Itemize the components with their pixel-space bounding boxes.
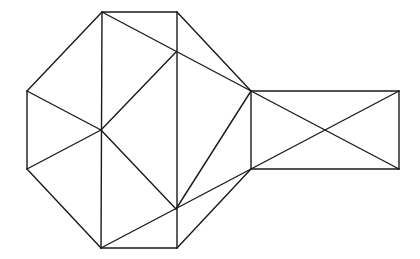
triangulated-octagon-diagram: [0, 0, 420, 259]
diagram-edges: [27, 12, 399, 248]
edge-F-D: [101, 169, 251, 248]
edge-D-E: [177, 169, 251, 248]
edge-C-R: [176, 91, 251, 209]
edge-P-R: [101, 130, 176, 209]
edge-H-P: [27, 91, 101, 130]
edge-B-C: [177, 12, 251, 91]
edge-G-P: [27, 130, 101, 169]
edge-P-Q: [101, 52, 176, 130]
edge-F-G: [27, 169, 101, 248]
edge-H-A: [27, 12, 102, 91]
